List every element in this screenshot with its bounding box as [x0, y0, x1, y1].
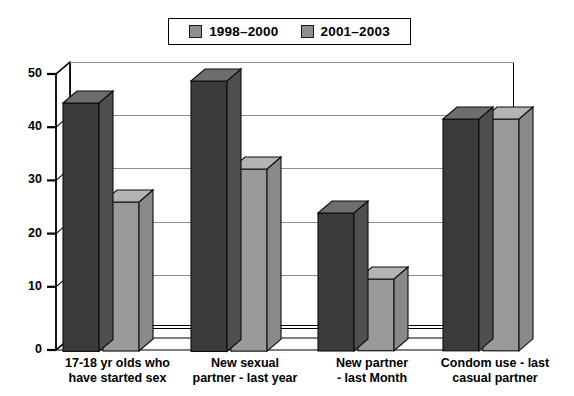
- plot-area: 50 40 30 20 10 0 17-18 yr olds who have …: [0, 0, 574, 396]
- bar-3d-shape: [62, 90, 114, 352]
- bar-series1-cat4: [442, 106, 478, 350]
- bar-series1-cat2: [190, 68, 226, 350]
- bar-3d-shape: [442, 106, 494, 352]
- y-tick-label-30: 30: [16, 173, 42, 186]
- bar-series1-cat1: [62, 90, 98, 350]
- y-tick-label-20: 20: [16, 227, 42, 240]
- x-category-label-3: New partner - last Month: [312, 356, 432, 386]
- bar-chart: 1998–2000 2001–2003: [0, 0, 574, 396]
- y-tick-label-40: 40: [16, 120, 42, 133]
- bar-3d-shape: [190, 68, 242, 352]
- y-tick-label-0: 0: [16, 343, 42, 356]
- bar-series1-cat3: [317, 200, 353, 350]
- x-category-label-1: 17-18 yr olds who have started sex: [50, 356, 185, 386]
- x-category-label-4: Condom use - last casual partner: [425, 356, 565, 386]
- y-tick-label-10: 10: [16, 280, 42, 293]
- bar-3d-shape: [317, 200, 369, 352]
- x-category-label-2: New sexual partner - last year: [175, 356, 315, 386]
- gridline-50: [70, 62, 514, 63]
- y-tick-label-50: 50: [16, 67, 42, 80]
